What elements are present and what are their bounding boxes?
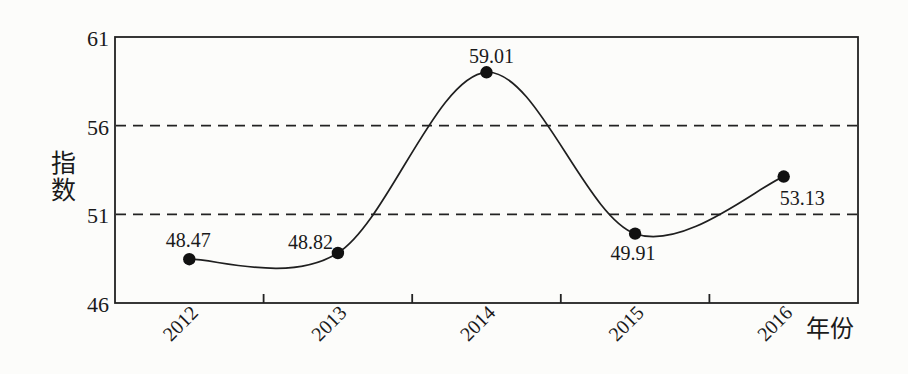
y-tick-label: 51 [87,203,109,228]
data-point-label: 48.82 [288,231,333,253]
y-tick-label: 56 [87,115,109,140]
data-point [183,253,195,265]
data-point-label: 59.01 [469,45,514,67]
x-tick-label: 2013 [307,301,351,345]
data-point [332,247,344,259]
x-tick-label: 2016 [753,301,797,345]
data-series-line [189,72,783,268]
x-tick-label: 2012 [158,301,202,345]
x-tick-label: 2014 [455,301,499,345]
data-point-label: 49.91 [611,242,656,264]
line-chart-svg: 48.4748.8259.0149.9153.13615651462012201… [0,0,908,374]
data-point-label: 53.13 [780,187,825,209]
data-point [778,170,790,182]
x-tick-label: 2015 [604,301,648,345]
y-axis-title: 指数 [50,150,77,204]
data-point [480,66,492,78]
y-tick-label: 61 [87,26,109,51]
x-axis-title: 年份 [806,309,854,344]
y-tick-label: 46 [87,292,109,317]
chart-canvas: 48.4748.8259.0149.9153.13615651462012201… [0,0,908,374]
data-point [629,227,641,239]
data-point-label: 48.47 [166,229,211,251]
